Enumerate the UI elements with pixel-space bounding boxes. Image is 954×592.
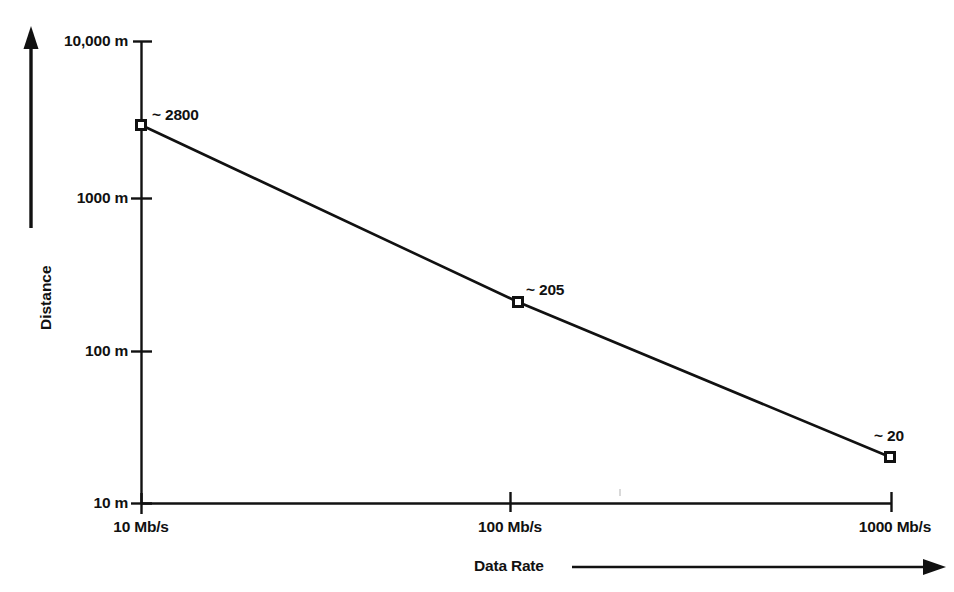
x-tick-label-1000mbs: 1000 Mb/s <box>815 519 954 535</box>
y-axis-title: Distance <box>38 265 54 330</box>
x-axis-title: Data Rate <box>474 558 544 574</box>
y-tick-label-1000m: 1000 m <box>8 190 128 206</box>
data-point-label-20: ~ 20 <box>874 428 904 444</box>
y-tick-label-10000m: 10,000 m <box>8 33 128 49</box>
y-tick-label-100m: 100 m <box>8 343 128 359</box>
data-point-marker <box>886 453 895 462</box>
y-tick-label-10m: 10 m <box>8 495 128 511</box>
x-tick-label-10mbs: 10 Mb/s <box>61 519 221 535</box>
data-point-marker <box>514 298 523 307</box>
x-axis-direction-arrow <box>572 559 946 575</box>
data-series-line <box>141 125 890 457</box>
chart-plot-svg <box>0 0 954 592</box>
data-point-label-2800: ~ 2800 <box>152 107 199 123</box>
scan-artifact-speck <box>619 489 621 496</box>
data-point-marker <box>137 121 146 130</box>
chart-canvas: 10,000 m 1000 m 100 m 10 m 10 Mb/s 100 M… <box>0 0 954 592</box>
x-tick-label-100mbs: 100 Mb/s <box>430 519 590 535</box>
data-point-label-205: ~ 205 <box>526 282 564 298</box>
